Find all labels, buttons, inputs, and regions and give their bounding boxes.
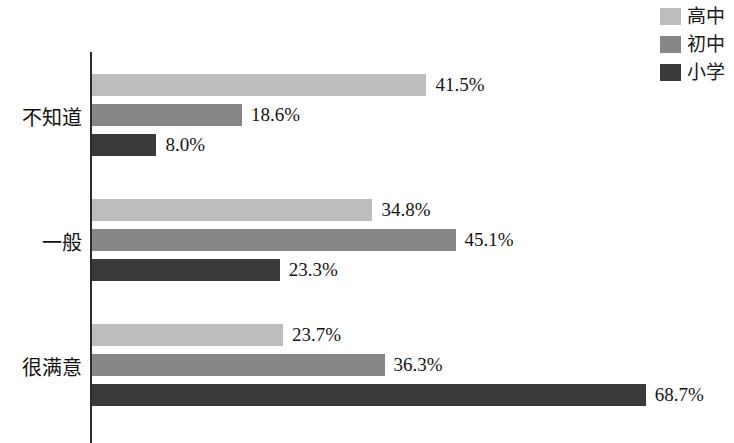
legend-item[interactable]: 高中 bbox=[660, 6, 725, 27]
legend-item-label: 初中 bbox=[687, 35, 725, 54]
bar-chart: 41.5%18.6%8.0%34.8%45.1%23.3%23.7%36.3%6… bbox=[0, 0, 734, 443]
bar-value-label: 18.6% bbox=[251, 104, 300, 126]
bar-value-label: 41.5% bbox=[435, 74, 484, 96]
category-axis-label: 很满意 bbox=[0, 352, 82, 381]
legend-swatch-icon bbox=[660, 64, 681, 81]
plot-area: 41.5%18.6%8.0%34.8%45.1%23.3%23.7%36.3%6… bbox=[0, 0, 734, 443]
bar-value-label: 68.7% bbox=[655, 384, 704, 406]
bar-value-label: 8.0% bbox=[165, 134, 205, 156]
bar-value-label: 23.7% bbox=[292, 324, 341, 346]
category-axis-label: 一般 bbox=[0, 227, 82, 256]
bar-value-label: 34.8% bbox=[381, 199, 430, 221]
legend-item-label: 小学 bbox=[687, 63, 725, 82]
bar[interactable] bbox=[92, 229, 456, 251]
bar[interactable] bbox=[92, 199, 372, 221]
legend-swatch-icon bbox=[660, 36, 681, 53]
legend-item-label: 高中 bbox=[687, 7, 725, 26]
bar[interactable] bbox=[92, 74, 426, 96]
legend: 高中初中小学 bbox=[660, 6, 725, 83]
category-label-wrap: 一般 bbox=[0, 227, 82, 251]
bar[interactable] bbox=[92, 259, 280, 281]
category-axis-label: 不知道 bbox=[0, 102, 82, 131]
bar[interactable] bbox=[92, 384, 646, 406]
bar-value-label: 36.3% bbox=[394, 354, 443, 376]
category-label-wrap: 很满意 bbox=[0, 352, 82, 376]
bar-value-label: 45.1% bbox=[465, 229, 514, 251]
category-label-wrap: 不知道 bbox=[0, 102, 82, 126]
bar[interactable] bbox=[92, 134, 156, 156]
bar[interactable] bbox=[92, 104, 242, 126]
bar[interactable] bbox=[92, 324, 283, 346]
legend-item[interactable]: 初中 bbox=[660, 34, 725, 55]
bar[interactable] bbox=[92, 354, 385, 376]
legend-item[interactable]: 小学 bbox=[660, 62, 725, 83]
legend-swatch-icon bbox=[660, 8, 681, 25]
bar-value-label: 23.3% bbox=[289, 259, 338, 281]
